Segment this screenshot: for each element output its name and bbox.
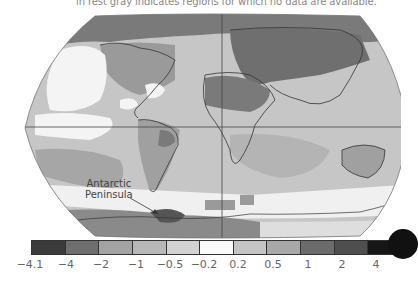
scale-label: 0.5 [264,258,282,271]
antarctic-peninsula-label: Antarctic Peninsula [85,178,133,200]
world-map-svg [0,0,401,240]
color-segment [132,241,166,254]
color-scale-labels: −4.1 −4 −2 −1 −0.5 −0.2 0.2 0.5 1 2 4 [0,258,401,274]
scale-label: 0.2 [229,258,247,271]
scale-label: −2 [93,258,109,271]
scale-label: −4.1 [17,258,44,271]
color-segment [65,241,99,254]
scale-label: −0.2 [191,258,218,271]
annotation-line-1: Antarctic [85,178,133,189]
page-edge-shadow [388,229,418,259]
color-segment [300,241,334,254]
scale-label: 4 [373,258,380,271]
color-segment [31,241,65,254]
annotation-line-2: Peninsula [85,189,133,200]
scale-label: 2 [339,258,346,271]
color-segment [334,241,368,254]
color-segment [98,241,132,254]
color-segment [166,241,200,254]
temperature-anomaly-map: Antarctic Peninsula [0,0,401,240]
color-segment [266,241,300,254]
color-segment [233,241,267,254]
scale-label: −0.5 [157,258,184,271]
scale-label: −4 [58,258,74,271]
color-scale-bar [31,240,401,255]
color-segment [199,241,233,254]
scale-label: −1 [128,258,144,271]
scale-label: 1 [305,258,312,271]
